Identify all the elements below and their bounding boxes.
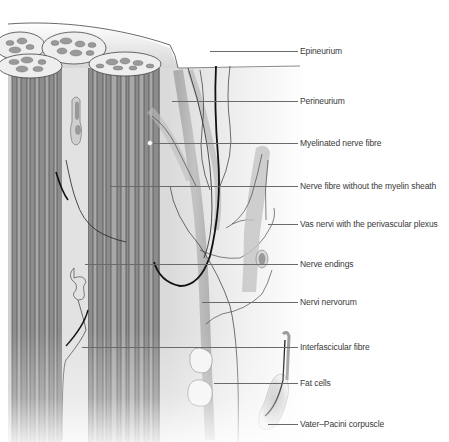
leader-myelinated-nerve-fibre <box>153 143 298 144</box>
myelinated-fibre-marker <box>148 141 153 146</box>
leader-interfascicular-fibre <box>82 347 298 348</box>
label-perineurium: Perineurium <box>300 96 345 106</box>
leader-vas-nervi <box>268 224 298 225</box>
leader-nerve-endings <box>85 264 298 265</box>
label-interfascicular-fibre: Interfascicular fibre <box>300 342 370 352</box>
label-nerve-endings: Nerve endings <box>300 259 354 269</box>
label-vater-pacini-corpuscle: Vater–Pacini corpuscle <box>300 419 384 429</box>
label-nerve-fibre-without-myelin: Nerve fibre without the myelin sheath <box>300 181 436 191</box>
label-vas-nervi: Vas nervi with the perivascular plexus <box>300 219 438 229</box>
label-epineurium: Epineurium <box>300 46 342 56</box>
label-fat-cells: Fat cells <box>300 378 331 388</box>
leader-nerve-fibre-without-myelin <box>110 186 298 187</box>
label-nervi-nervorum: Nervi nervorum <box>300 297 357 307</box>
leader-epineurium <box>210 51 298 52</box>
leader-vater-pacini-corpuscle <box>268 424 298 425</box>
leader-nervi-nervorum <box>202 302 298 303</box>
label-myelinated-nerve-fibre: Myelinated nerve fibre <box>300 138 381 148</box>
leader-perineurium <box>172 101 298 102</box>
leader-fat-cells <box>214 383 298 384</box>
